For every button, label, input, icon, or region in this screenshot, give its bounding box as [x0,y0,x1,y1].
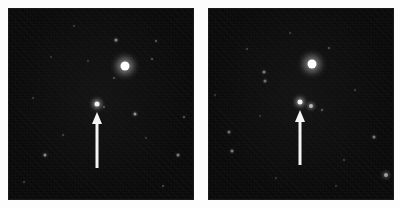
field-star [309,104,313,108]
field-star [183,116,185,118]
field-star [308,60,317,69]
field-star [145,137,147,139]
field-star [384,173,388,177]
field-star [113,77,115,79]
field-star [151,58,153,60]
field-star [373,136,376,139]
field-star [23,181,25,183]
field-star [32,97,34,99]
field-star [328,47,330,49]
field-star [50,56,52,58]
field-star [264,80,267,83]
arrow-shaft [299,120,302,165]
target-star [298,100,303,105]
field-star [259,115,261,117]
arrow-head-icon [295,110,305,122]
field-star [103,106,105,108]
field-star [231,150,234,153]
field-star [177,154,180,157]
field-star [115,39,118,42]
field-star [214,94,216,96]
target-arrow [294,110,306,165]
field-star [134,113,137,116]
sky-background-gradient [209,9,393,199]
field-star [354,89,356,91]
field-star [343,159,345,161]
target-arrow [91,112,103,168]
field-star [335,185,337,187]
sensor-noise-texture [209,9,393,199]
arrow-shaft [96,122,99,168]
field-star [44,154,47,157]
left-sky-image[interactable] [9,9,193,199]
right-sky-image[interactable] [209,9,393,199]
field-star [275,177,277,179]
field-star [228,131,231,134]
field-star [289,32,291,34]
field-star [121,62,130,71]
field-star [155,40,157,42]
arrow-head-icon [92,112,102,124]
astronomy-image-figure [0,0,400,208]
field-star [263,71,266,74]
sky-background-gradient [9,9,193,199]
field-star [162,185,164,187]
field-star [246,48,248,50]
sensor-noise-texture [9,9,193,199]
field-star [321,109,323,111]
field-star [87,60,89,62]
field-star [62,134,64,136]
target-star [95,102,100,107]
field-star [73,25,75,27]
